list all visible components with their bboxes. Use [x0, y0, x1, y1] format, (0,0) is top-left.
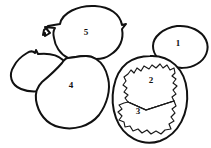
region-3-label: 3	[136, 106, 141, 116]
region-4-label: 4	[69, 80, 74, 90]
region-2-label: 2	[149, 75, 154, 85]
region-5-label: 5	[84, 27, 89, 37]
line-drawing-svg: 1 2 3 4 5	[0, 0, 211, 148]
figure-canvas: 1 2 3 4 5	[0, 0, 211, 148]
region-1-label: 1	[176, 38, 181, 48]
